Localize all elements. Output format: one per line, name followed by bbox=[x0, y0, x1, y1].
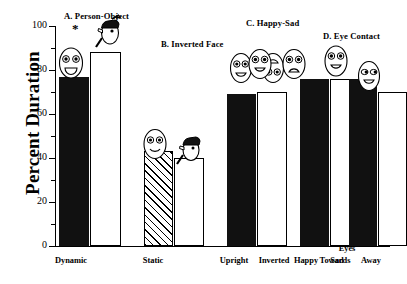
bar-inverted bbox=[257, 92, 287, 246]
face-eyes-toward-icon bbox=[322, 44, 350, 78]
x-label-dynamic: Dynamic bbox=[46, 256, 96, 265]
bar-happy bbox=[300, 79, 329, 246]
significance-star: * bbox=[72, 22, 79, 35]
bar-static bbox=[144, 151, 173, 246]
person-dynamic-icon bbox=[88, 14, 124, 50]
face-happy-icon bbox=[56, 46, 86, 80]
bar-holder-dynamic-open bbox=[90, 26, 121, 246]
group-title-d: D. Eye Contact bbox=[323, 31, 380, 41]
face-sad-icon bbox=[280, 48, 308, 80]
x-label-static: Static bbox=[132, 256, 174, 265]
person-static-icon bbox=[171, 132, 205, 166]
y-tick-label-0: 0 bbox=[21, 240, 47, 250]
bar-upright bbox=[227, 94, 256, 246]
y-tick-label-80: 80 bbox=[21, 64, 47, 74]
bar-person-static bbox=[174, 158, 204, 246]
y-tick-label-60: 60 bbox=[21, 108, 47, 118]
x-label-away: Away bbox=[352, 256, 390, 265]
x-sublabel-eyes: Eyes bbox=[325, 244, 369, 253]
bar-dynamic bbox=[59, 77, 89, 246]
bar-person-dynamic bbox=[90, 52, 121, 246]
face-happy-icon bbox=[246, 48, 274, 80]
bar-holder-away bbox=[378, 26, 407, 246]
y-axis-title: Percent Duration bbox=[22, 28, 44, 218]
bar-away bbox=[378, 92, 407, 246]
face-eyes-away-icon bbox=[356, 60, 382, 92]
bar-holder-towards bbox=[349, 26, 377, 246]
y-tick-label-100: 100 bbox=[21, 20, 47, 30]
face-neutral-icon bbox=[141, 128, 169, 160]
y-tick-0 bbox=[49, 246, 55, 247]
y-tick-label-20: 20 bbox=[21, 196, 47, 206]
group-title-b: B. Inverted Face bbox=[161, 39, 223, 49]
y-tick-label-40: 40 bbox=[21, 152, 47, 162]
group-title-c: C. Happy-Sad bbox=[246, 18, 299, 28]
bar-towards bbox=[349, 79, 377, 246]
